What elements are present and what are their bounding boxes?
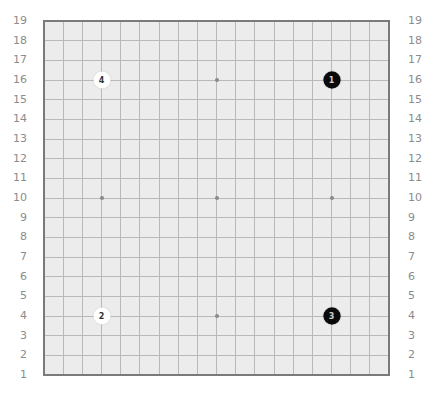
row-label: 15 bbox=[0, 94, 27, 106]
row-label: 14 bbox=[408, 113, 432, 125]
row-label: 7 bbox=[0, 251, 27, 263]
row-label: 17 bbox=[0, 54, 27, 66]
grid-line-horizontal bbox=[44, 217, 389, 218]
grid-line-horizontal bbox=[44, 355, 389, 356]
row-label: 15 bbox=[408, 94, 432, 106]
go-board-view: 19181716151413121110987654321 1918171615… bbox=[0, 0, 434, 396]
row-label: 3 bbox=[408, 330, 432, 342]
row-label: 19 bbox=[408, 15, 432, 27]
row-label: 19 bbox=[0, 15, 27, 27]
grid-line-vertical bbox=[293, 21, 294, 375]
grid-line-horizontal bbox=[44, 296, 389, 297]
move-number: 3 bbox=[329, 312, 335, 321]
white-stone[interactable]: 2 bbox=[93, 308, 110, 325]
star-point bbox=[330, 196, 334, 200]
move-number: 4 bbox=[99, 76, 105, 85]
go-board[interactable]: 1234 bbox=[44, 21, 389, 375]
grid-line-vertical bbox=[235, 21, 236, 375]
grid-line-horizontal bbox=[44, 335, 389, 336]
grid-line-vertical bbox=[369, 21, 370, 375]
row-label: 13 bbox=[408, 133, 432, 145]
row-label: 14 bbox=[0, 113, 27, 125]
star-point bbox=[215, 78, 219, 82]
grid-line-vertical bbox=[350, 21, 351, 375]
row-label: 3 bbox=[0, 330, 27, 342]
row-label: 10 bbox=[0, 192, 27, 204]
row-label: 9 bbox=[0, 212, 27, 224]
row-label: 1 bbox=[408, 369, 432, 381]
row-label: 18 bbox=[408, 35, 432, 47]
row-label: 8 bbox=[408, 231, 432, 243]
grid-line-vertical bbox=[274, 21, 275, 375]
row-label: 13 bbox=[0, 133, 27, 145]
row-label: 1 bbox=[0, 369, 27, 381]
row-label: 4 bbox=[0, 310, 27, 322]
row-label: 11 bbox=[408, 172, 432, 184]
white-stone[interactable]: 4 bbox=[93, 72, 110, 89]
row-label: 6 bbox=[0, 271, 27, 283]
grid-line-horizontal bbox=[44, 375, 389, 376]
row-label: 12 bbox=[0, 153, 27, 165]
star-point bbox=[100, 196, 104, 200]
row-label: 16 bbox=[408, 74, 432, 86]
row-label: 2 bbox=[0, 349, 27, 361]
grid-line-vertical bbox=[312, 21, 313, 375]
row-label: 17 bbox=[408, 54, 432, 66]
grid-line-vertical bbox=[389, 21, 390, 375]
grid-line-horizontal bbox=[44, 276, 389, 277]
row-label: 11 bbox=[0, 172, 27, 184]
move-number: 1 bbox=[329, 76, 335, 85]
row-label: 6 bbox=[408, 271, 432, 283]
black-stone[interactable]: 1 bbox=[323, 72, 340, 89]
row-label: 7 bbox=[408, 251, 432, 263]
row-label: 12 bbox=[408, 153, 432, 165]
row-label: 16 bbox=[0, 74, 27, 86]
row-label: 2 bbox=[408, 349, 432, 361]
row-label: 18 bbox=[0, 35, 27, 47]
grid-line-vertical bbox=[254, 21, 255, 375]
row-label: 9 bbox=[408, 212, 432, 224]
row-label: 10 bbox=[408, 192, 432, 204]
row-label: 5 bbox=[0, 290, 27, 302]
row-label: 8 bbox=[0, 231, 27, 243]
star-point bbox=[215, 314, 219, 318]
grid-line-horizontal bbox=[44, 237, 389, 238]
row-label: 5 bbox=[408, 290, 432, 302]
move-number: 2 bbox=[99, 312, 105, 321]
star-point bbox=[215, 196, 219, 200]
black-stone[interactable]: 3 bbox=[323, 308, 340, 325]
row-label: 4 bbox=[408, 310, 432, 322]
grid-line-horizontal bbox=[44, 257, 389, 258]
